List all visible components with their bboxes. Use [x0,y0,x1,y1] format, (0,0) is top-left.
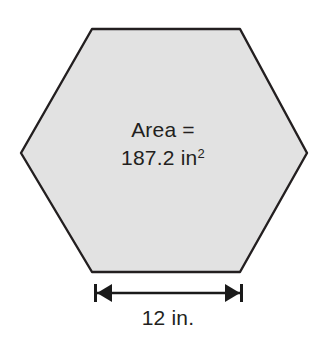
geometry-figure: Area = 187.2 in2 12 in. [0,0,326,344]
area-label-line1: Area = [131,118,195,141]
area-label-line2: 187.2 in2 [121,146,205,169]
area-unit: in [181,146,198,169]
area-value: 187.2 [121,146,175,169]
hexagon-diagram-canvas: Area = 187.2 in2 12 in. [0,0,326,344]
dimension-right-arrowhead [225,284,240,302]
dimension-left-arrowhead [97,284,112,302]
area-unit-exponent: 2 [197,146,204,161]
dimension-arrow-group [96,284,242,302]
dimension-label: 12 in. [142,306,195,329]
